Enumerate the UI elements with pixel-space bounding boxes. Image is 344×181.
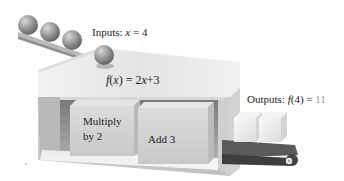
function-machine-diagram: Inputs: x = 4 f(x) = 2x+3 Multiply by 2 … <box>0 0 344 181</box>
inputs-label: Inputs: x = 4 <box>92 26 147 38</box>
output-cube-2 <box>259 112 287 142</box>
inputs-value: 4 <box>142 26 148 38</box>
outputs-prefix: Outputs: <box>247 93 288 105</box>
speck <box>25 163 27 165</box>
step-add-line1: Add 3 <box>148 133 175 145</box>
diagram-graphics <box>0 0 344 181</box>
function-rhs-prefix: = 2 <box>123 73 142 87</box>
outputs-label: Outputs: f(4) = 11 <box>247 93 326 105</box>
output-conveyor <box>222 140 298 166</box>
inputs-prefix: Inputs: <box>92 26 125 38</box>
step-multiply-label: Multiply by 2 <box>83 114 122 144</box>
input-ball-2 <box>40 22 60 42</box>
step-multiply-line1: Multiply <box>83 114 122 129</box>
function-label: f(x) = 2x+3 <box>106 73 160 88</box>
output-cube-1 <box>234 112 262 142</box>
input-ball-1 <box>18 15 38 35</box>
outputs-equals: = <box>304 93 316 105</box>
input-ball-4 <box>94 45 114 65</box>
outputs-value: 11 <box>315 93 326 105</box>
outputs-argument: (4) <box>291 93 304 105</box>
inputs-equals: = <box>130 26 142 38</box>
step-add-label: Add 3 <box>148 133 175 145</box>
input-ball-3 <box>62 30 82 50</box>
function-rhs-suffix: +3 <box>147 73 160 87</box>
step-multiply-line2: by 2 <box>83 129 122 144</box>
